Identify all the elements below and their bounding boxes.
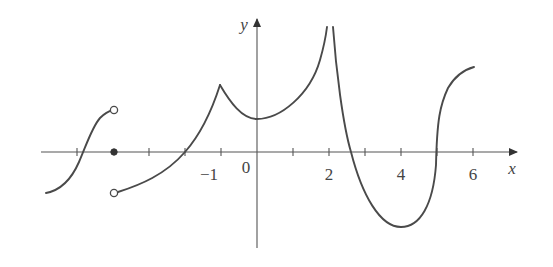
x-axis-label: x: [507, 159, 516, 178]
open-circle-top: [110, 106, 117, 113]
tick-label-2: 2: [325, 165, 334, 184]
tick-label-6: 6: [469, 165, 478, 184]
tick-label-neg1: −1: [200, 165, 218, 184]
open-circle-bottom: [110, 189, 117, 196]
function-graph: −1 0 2 4 6 x y: [0, 0, 553, 267]
tick-label-4: 4: [397, 165, 406, 184]
tick-label-0: 0: [242, 158, 251, 177]
graph-canvas: −1 0 2 4 6 x y: [0, 0, 553, 267]
closed-point-on-axis: [111, 149, 117, 155]
curve-segment-to-asymptote: [220, 27, 327, 119]
y-axis-label: y: [238, 15, 248, 34]
curve-segment-right: [333, 27, 474, 227]
